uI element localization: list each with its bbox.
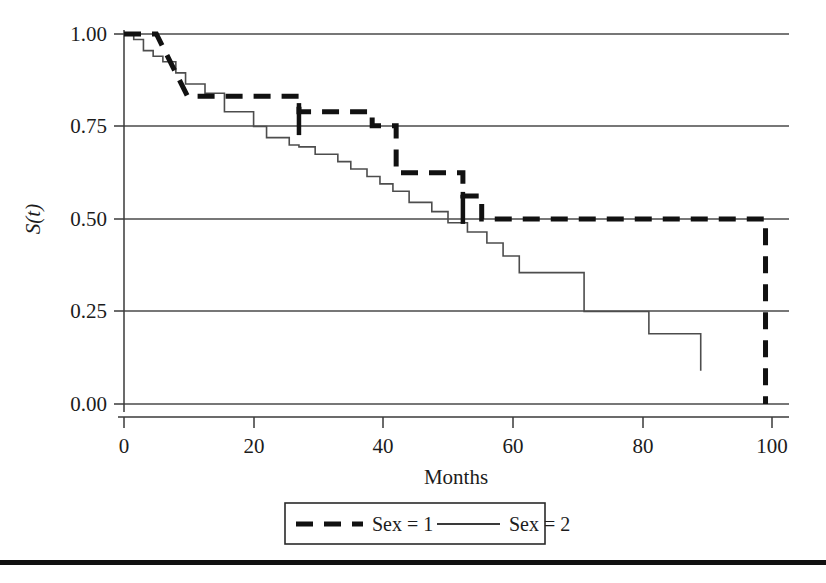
x-tick-label-20: 20 xyxy=(244,434,265,458)
survival-plot-figure: 1.00 0.75 0.50 0.25 0.00 S(t) 0 20 40 60… xyxy=(0,0,826,583)
y-tick-label-0.25: 0.25 xyxy=(70,299,107,323)
x-tick-label-100: 100 xyxy=(756,434,788,458)
legend: Sex = 1 Sex = 2 xyxy=(285,503,570,544)
legend-label-sex-2: Sex = 2 xyxy=(509,513,570,535)
y-axis: 1.00 0.75 0.50 0.25 0.00 xyxy=(70,22,124,416)
x-tick-label-60: 60 xyxy=(503,434,524,458)
x-axis: 0 20 40 60 80 100 xyxy=(118,417,789,458)
x-tick-label-40: 40 xyxy=(373,434,394,458)
kaplan-meier-chart: 1.00 0.75 0.50 0.25 0.00 S(t) 0 20 40 60… xyxy=(0,0,826,583)
x-tick-label-80: 80 xyxy=(633,434,654,458)
y-tick-label-1.00: 1.00 xyxy=(70,22,107,46)
censor-marks-sex-1 xyxy=(299,103,463,224)
bottom-rule xyxy=(0,560,826,565)
y-tick-label-0.50: 0.50 xyxy=(70,207,107,231)
y-tick-label-0.75: 0.75 xyxy=(70,114,107,138)
x-tick-label-0: 0 xyxy=(119,434,130,458)
y-tick-label-0.00: 0.00 xyxy=(70,392,107,416)
gridlines xyxy=(124,34,789,404)
y-axis-title: S(t) xyxy=(21,204,45,234)
legend-label-sex-1: Sex = 1 xyxy=(372,513,433,535)
survival-curve-sex-2 xyxy=(124,34,701,371)
x-axis-title: Months xyxy=(424,465,488,489)
